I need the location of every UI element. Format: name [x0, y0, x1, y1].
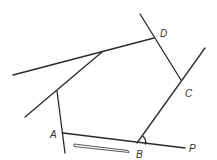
line-through-a: [57, 91, 65, 153]
line-d-to-c: [140, 14, 181, 80]
line-c-to-b: [137, 48, 205, 143]
label-d: D: [160, 28, 167, 39]
label-p: P: [189, 143, 196, 154]
direction-arrow-icon: [74, 144, 129, 153]
line-left-to-d: [13, 38, 154, 75]
label-b: B: [136, 149, 143, 160]
label-a: A: [49, 129, 57, 140]
polygon-diagram: D C A B P: [0, 0, 217, 160]
label-c: C: [185, 88, 193, 99]
line-a-to-p: [63, 133, 185, 148]
